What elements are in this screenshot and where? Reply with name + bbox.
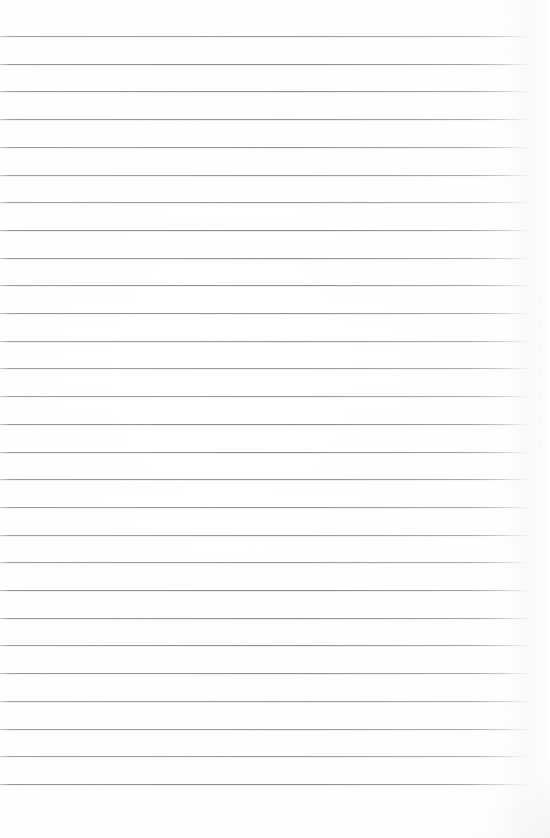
writing-area[interactable] (0, 36, 535, 786)
scanned-page (0, 0, 550, 838)
